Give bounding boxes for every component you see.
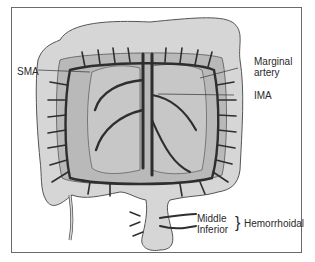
label-brace: } xyxy=(235,214,240,232)
label-marginal-artery-line2: artery xyxy=(254,67,280,78)
label-ima: IMA xyxy=(254,90,272,101)
label-middle: Middle xyxy=(197,213,226,224)
label-hemorrhoidal: Hemorrhoidal xyxy=(244,218,304,229)
mesentery xyxy=(56,53,226,184)
label-inferior: Inferior xyxy=(197,224,228,235)
label-sma: SMA xyxy=(17,66,39,77)
label-marginal-artery-line1: Marginal xyxy=(254,56,292,67)
